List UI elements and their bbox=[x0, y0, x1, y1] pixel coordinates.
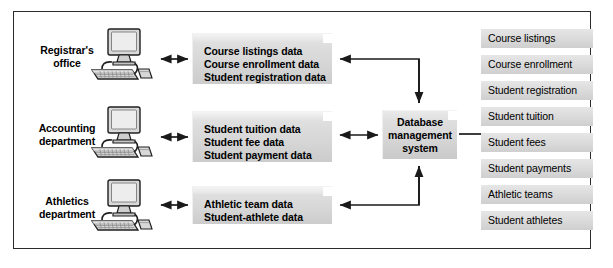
list-item: Student athletes bbox=[481, 211, 593, 230]
dbms-line1: Database bbox=[388, 116, 452, 129]
diagram-canvas: Registrar's office Accounting department… bbox=[0, 0, 613, 268]
athletics-data-box: Athletic team data Student-athlete data bbox=[192, 186, 332, 224]
box-corner-cut bbox=[323, 112, 332, 121]
data-box-line: Course enrollment data bbox=[204, 58, 332, 71]
desktop-computer-icon bbox=[86, 103, 160, 165]
desktop-computer-icon bbox=[86, 25, 160, 87]
accounting-data-box: Student tuition data Student fee data St… bbox=[192, 111, 332, 162]
box-corner-cut bbox=[323, 187, 332, 196]
list-item: Student registration bbox=[481, 81, 593, 100]
data-box-line: Student tuition data bbox=[204, 123, 332, 136]
list-item: Athletic teams bbox=[481, 185, 593, 204]
dbms-line2: management bbox=[388, 129, 452, 142]
data-box-line: Course listings data bbox=[204, 45, 332, 58]
data-box-line: Athletic team data bbox=[204, 198, 332, 211]
data-box-line: Student payment data bbox=[204, 149, 332, 162]
list-item: Course listings bbox=[481, 29, 593, 48]
list-item: Course enrollment bbox=[481, 55, 593, 74]
data-box-line: Student registration data bbox=[204, 71, 332, 84]
list-item: Student fees bbox=[481, 133, 593, 152]
list-item: Student tuition bbox=[481, 107, 593, 126]
dbms-line3: system bbox=[388, 142, 452, 155]
list-item: Student payments bbox=[481, 159, 593, 178]
data-box-line: Student-athlete data bbox=[204, 211, 332, 224]
database-management-system: Database management system bbox=[382, 110, 457, 159]
desktop-computer-icon bbox=[86, 176, 160, 238]
box-corner-cut bbox=[323, 34, 332, 43]
data-box-line: Student fee data bbox=[204, 136, 332, 149]
registrar-data-box: Course listings data Course enrollment d… bbox=[192, 33, 332, 84]
box-corner-cut bbox=[448, 111, 457, 120]
